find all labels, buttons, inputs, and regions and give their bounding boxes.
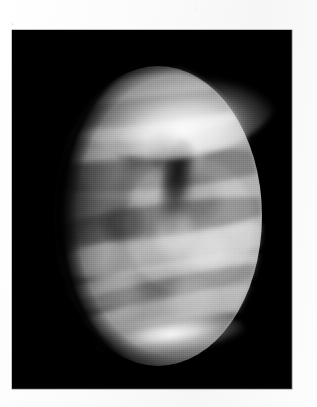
venus-disk [54,66,262,366]
terminator-shading [54,66,262,366]
scanned-page [0,0,317,407]
venus-image-panel [12,30,292,389]
